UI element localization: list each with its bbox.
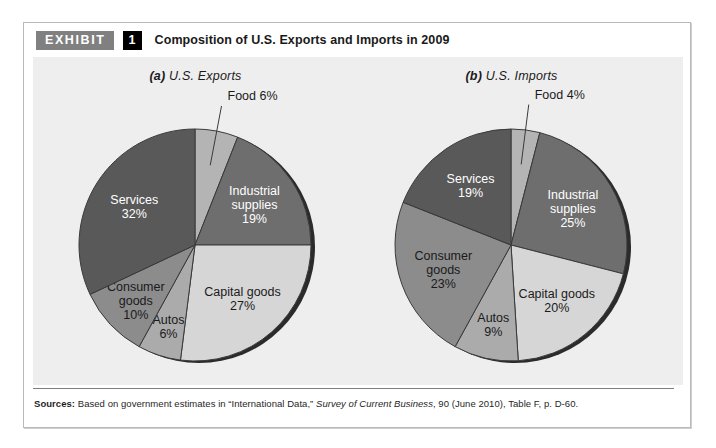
svg-text:goods: goods (119, 294, 153, 308)
svg-text:Autos: Autos (477, 311, 509, 325)
exhibit-footer: Sources: Based on government estimates i… (24, 385, 690, 427)
svg-text:Services: Services (447, 172, 495, 186)
pie-svg-us-exports: Food 6%Industrialsupplies19%Capital good… (33, 57, 358, 387)
sources-text-before: Based on government estimates in “Intern… (75, 398, 316, 409)
svg-text:Capital goods: Capital goods (519, 287, 595, 301)
sources-note: Sources: Based on government estimates i… (34, 398, 578, 409)
svg-text:supplies: supplies (550, 202, 596, 216)
svg-text:Capital goods: Capital goods (204, 285, 280, 299)
svg-text:27%: 27% (230, 299, 255, 313)
svg-text:23%: 23% (431, 277, 456, 291)
exhibit-tag-label: EXHIBIT (36, 31, 114, 50)
svg-text:19%: 19% (458, 186, 483, 200)
svg-text:9%: 9% (484, 325, 502, 339)
exhibit-number-badge: 1 (123, 31, 142, 50)
pie-callout-label-food: Food 4% (535, 88, 585, 102)
pie-chart-us-exports: (a) U.S. Exports Food 6%Industrialsuppli… (33, 57, 358, 387)
chart-panel: (a) U.S. Exports Food 6%Industrialsuppli… (33, 57, 683, 387)
svg-text:25%: 25% (560, 216, 585, 230)
pie-chart-us-imports: (b) U.S. Imports Food 4%Industrialsuppli… (349, 57, 674, 387)
svg-text:Industrial: Industrial (548, 188, 599, 202)
pie-svg-us-imports: Food 4%Industrialsupplies25%Capital good… (349, 57, 674, 387)
svg-text:6%: 6% (159, 327, 177, 341)
svg-text:10%: 10% (123, 308, 148, 322)
svg-text:Industrial: Industrial (229, 184, 280, 198)
exhibit-title: Composition of U.S. Exports and Imports … (155, 33, 450, 47)
exhibit-frame: EXHIBIT 1 Composition of U.S. Exports an… (23, 22, 691, 428)
sources-label: Sources: (34, 398, 75, 409)
svg-text:20%: 20% (544, 301, 569, 315)
pie-callout-label-food: Food 6% (228, 89, 278, 103)
svg-text:goods: goods (426, 263, 460, 277)
svg-text:Services: Services (110, 193, 158, 207)
exhibit-header: EXHIBIT 1 Composition of U.S. Exports an… (24, 23, 690, 57)
svg-text:Consumer: Consumer (414, 249, 472, 263)
svg-text:Autos: Autos (152, 313, 184, 327)
sources-text-after: , 90 (June 2010), Table F, p. D-60. (433, 398, 578, 409)
svg-text:supplies: supplies (232, 198, 278, 212)
svg-text:19%: 19% (242, 212, 267, 226)
footer-divider (33, 388, 674, 389)
sources-publication: Survey of Current Business (316, 398, 433, 409)
svg-text:32%: 32% (122, 207, 147, 221)
